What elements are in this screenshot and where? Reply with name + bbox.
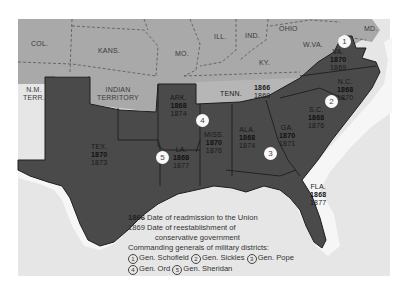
label-kans: KANS. <box>98 47 120 55</box>
district-marker-2: 2 <box>325 95 338 108</box>
district-2-icon: 2 <box>191 254 201 264</box>
label-fla: FLA.18681877 <box>310 183 326 207</box>
legend-conservative: 1869 Date of reestablishment of <box>128 223 294 233</box>
label-indian-territory: INDIANTERRITORY <box>97 86 139 102</box>
label-md: MD. <box>364 25 377 33</box>
label-tenn: TENN. <box>220 90 242 98</box>
label-mo: MO. <box>175 50 189 58</box>
label-col: COL. <box>31 40 48 48</box>
label-ala: ALA.18681874 <box>239 126 255 150</box>
label-la: LA.18681877 <box>173 146 189 170</box>
district-5-icon: 5 <box>172 265 182 275</box>
legend-conservative-cont: conservative government <box>128 233 294 243</box>
label-nm-terr: N.M.TERR. <box>23 86 45 102</box>
label-va: VA.18701869 <box>330 48 346 72</box>
label-ky: KY. <box>259 59 270 67</box>
district-4-icon: 4 <box>128 265 138 275</box>
district-marker-1: 1 <box>338 35 351 48</box>
label-ind: IND. <box>245 32 260 40</box>
legend-generals-heading: Commanding generals of military district… <box>128 243 294 253</box>
map-legend: 1866 Date of readmission to the Union 18… <box>128 213 294 275</box>
label-ohio: OHIO <box>279 25 298 33</box>
label-ga: GA.18701871 <box>279 124 295 148</box>
label-tenn-years: 18661869 <box>254 84 270 100</box>
label-tex: TEX.18701873 <box>91 143 107 167</box>
label-sc: S.C.18681876 <box>308 106 324 130</box>
label-miss: MISS.18701876 <box>204 131 224 155</box>
label-ark: ARK.18681874 <box>170 94 187 118</box>
label-ill: ILL. <box>214 33 226 41</box>
district-1-icon: 1 <box>128 254 138 264</box>
legend-readmission: 1866 Date of readmission to the Union <box>128 213 294 223</box>
district-3-icon: 3 <box>247 254 257 264</box>
legend-generals-row-2: 4Gen. Ord 5Gen. Sheridan <box>128 264 294 275</box>
legend-generals-row-1: 1Gen. Schofield 2Gen. Sickles 3Gen. Pope <box>128 253 294 264</box>
label-nc: N.C.18681870 <box>337 78 353 102</box>
label-wva: W.VA. <box>303 41 323 49</box>
district-marker-5: 5 <box>156 151 169 164</box>
district-marker-3: 3 <box>264 147 277 160</box>
district-marker-4: 4 <box>196 114 209 127</box>
